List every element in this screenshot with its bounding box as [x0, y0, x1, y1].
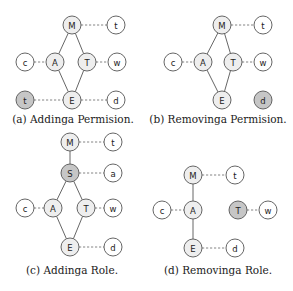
solid-edge-m-t — [225, 34, 231, 54]
solid-edge-a-e — [57, 216, 67, 238]
solid-edge-m-a — [207, 33, 218, 54]
node-label: c — [23, 58, 28, 68]
node-label: w — [265, 206, 272, 216]
node-w: w — [104, 199, 122, 217]
node-label: d — [232, 244, 237, 254]
node-t: t — [254, 16, 272, 34]
node-a: A — [44, 199, 62, 217]
node-label: c — [23, 204, 28, 214]
node-label: A — [52, 58, 58, 68]
node-w: w — [254, 53, 272, 71]
node-e: E — [184, 239, 202, 257]
caption-removing-permission: (b) Removinga Permision. — [149, 113, 286, 125]
node-label: A — [50, 204, 56, 214]
panel-adding-permission: MtcATwtEd — [16, 16, 126, 109]
node-m: M — [63, 16, 81, 34]
node-label: w — [260, 58, 267, 68]
node-label: E — [219, 96, 224, 106]
node-label: T — [229, 58, 236, 68]
node-label: T — [234, 206, 241, 216]
node-label: E — [67, 243, 72, 253]
node-label: T — [83, 58, 90, 68]
node-label: M — [66, 138, 73, 148]
node-label: d — [260, 96, 265, 106]
caption-removing-role: (d) Removinga Role. — [164, 264, 272, 276]
node-t: t — [107, 16, 125, 34]
solid-edge-m-a — [59, 33, 68, 54]
node-m: M — [61, 133, 79, 151]
node-label: w — [110, 204, 117, 214]
graph-canvas: MtcATwtEd MtcATwEd MtSacATwEd MtcATwEd — [0, 0, 293, 291]
node-label: A — [190, 206, 196, 216]
node-a: a — [104, 164, 122, 182]
node-d: d — [104, 238, 122, 256]
node-a: A — [46, 53, 64, 71]
node-label: a — [110, 169, 115, 179]
node-label: c — [171, 58, 176, 68]
node-d: d — [107, 91, 125, 109]
node-label: d — [110, 243, 115, 253]
solid-edge-a-e — [59, 70, 69, 92]
node-c: c — [153, 201, 171, 219]
solid-edge-s-a — [57, 181, 66, 200]
node-label: c — [160, 206, 165, 216]
node-label: M — [218, 21, 225, 31]
node-a: A — [194, 53, 212, 71]
node-label: M — [189, 171, 196, 181]
node-label: T — [82, 204, 89, 214]
node-w: w — [108, 53, 126, 71]
node-t2-highlighted: t — [16, 91, 34, 109]
node-label: S — [67, 169, 72, 179]
node-label: E — [69, 96, 74, 106]
node-c: c — [16, 53, 34, 71]
solid-edge-t-e — [75, 70, 83, 91]
node-d-highlighted: d — [254, 91, 272, 109]
figure-stage: MtcATwtEd MtcATwEd MtSacATwEd MtcATwEd (… — [0, 0, 293, 291]
node-t: t — [104, 133, 122, 151]
caption-adding-permission: (a) Addinga Permision. — [12, 113, 134, 125]
node-t: t — [226, 166, 244, 184]
solid-edge-t-e — [73, 216, 82, 238]
solid-edge-m-t — [75, 33, 83, 53]
node-c: c — [164, 53, 182, 71]
solid-edge-t-e — [225, 71, 231, 92]
node-t: T — [78, 53, 96, 71]
node-e: E — [63, 91, 81, 109]
node-m: M — [213, 16, 231, 34]
node-label: E — [190, 244, 195, 254]
solid-edge-s-t — [74, 181, 83, 200]
node-e: E — [61, 238, 79, 256]
panel-adding-role: MtSacATwEd — [16, 133, 122, 256]
node-label: d — [113, 96, 118, 106]
node-d: d — [226, 239, 244, 257]
panel-removing-permission: MtcATwEd — [164, 16, 272, 109]
node-w: w — [259, 201, 277, 219]
node-label: w — [114, 58, 121, 68]
node-t: T — [224, 53, 242, 71]
solid-edge-a-e — [207, 70, 218, 92]
node-t: T — [77, 199, 95, 217]
node-a: A — [184, 201, 202, 219]
node-label: A — [200, 58, 206, 68]
node-label: M — [68, 21, 75, 31]
node-s-highlighted: S — [61, 164, 79, 182]
node-t-highlighted: T — [229, 201, 247, 219]
node-m: M — [184, 166, 202, 184]
node-e: E — [213, 91, 231, 109]
panel-removing-role: MtcATwEd — [153, 166, 277, 257]
node-c: c — [16, 199, 34, 217]
caption-adding-role: (c) Addinga Role. — [26, 264, 118, 276]
